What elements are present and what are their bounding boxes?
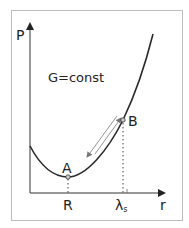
figure-frame [12,11,183,221]
p-vs-r-diagram: P r G=const A B R λs [0,0,189,228]
y-axis-label: P [16,27,24,43]
point-b-marker [121,118,125,122]
x-tick-label-lambda-s: λs [115,197,127,214]
x-tick-label-r: R [63,197,73,213]
arrow-down-to-a [87,116,117,157]
lambda-subscript: s [123,205,127,214]
pressure-curve [30,34,153,177]
point-b-label: B [128,113,138,129]
lambda-symbol: λ [115,197,123,213]
annotation-g-const: G=const [48,70,104,85]
x-axis-label: r [160,197,166,213]
point-a-label: A [62,160,72,176]
arrow-up-to-b [95,118,121,154]
